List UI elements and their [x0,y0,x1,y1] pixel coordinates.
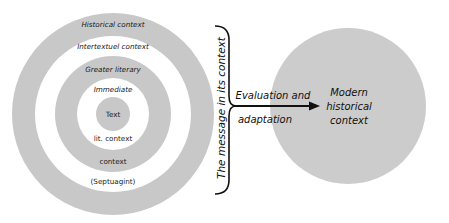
label-greater-literary: Greater literary [85,65,141,74]
target-label-line1: Modern [330,87,368,98]
concentric-rings: Historical context Intertextuel context … [12,13,214,215]
arrow-label-line2: adaptation [238,114,292,125]
arrow-label-line1: Evaluation and [236,90,311,101]
label-text: Text [105,110,121,119]
curly-brace: The message in its context [215,26,236,194]
label-septuagint: (Septuagint) [91,177,136,186]
label-context: context [99,157,126,166]
context-diagram: Historical context Intertextuel context … [0,0,449,223]
label-lit-context: lit. context [94,134,133,143]
label-intertextual-context: Intertextuel context [77,42,150,51]
label-historical-context: Historical context [81,20,145,29]
label-immediate: Immediate [94,85,133,94]
target-label-line3: context [330,115,369,126]
target-label-line2: historical [326,101,372,112]
brace-label: The message in its context [215,36,227,179]
